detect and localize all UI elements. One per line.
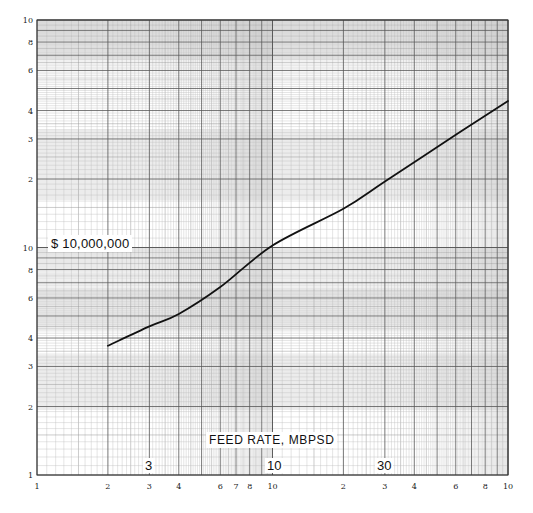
x-tick-label: 10 (267, 482, 277, 491)
y-tick-label: 8 (28, 266, 33, 275)
x-tick-label: 2 (341, 482, 346, 491)
x-annotation-3: 3 (143, 458, 154, 473)
y-tick-label: 2 (28, 175, 33, 184)
x-tick-label: 6 (218, 482, 223, 491)
x-tick-label: 3 (147, 482, 152, 491)
y-tick-label: 10 (23, 16, 33, 25)
x-tick-label: 1 (34, 482, 39, 491)
y-tick-label: 3 (28, 135, 33, 144)
x-tick-label: 10 (503, 482, 513, 491)
x-tick-label: 4 (176, 482, 181, 491)
y-tick-label: 6 (28, 66, 33, 75)
y-tick-label: 8 (28, 38, 33, 47)
x-axis-title: FEED RATE, MBPSD (206, 432, 337, 448)
x-tick-label: 6 (453, 482, 458, 491)
y-tick-label: 2 (28, 403, 33, 412)
x-tick-label: 3 (382, 482, 387, 491)
x-annotation-30: 30 (375, 458, 393, 473)
y-tick-label: 4 (28, 107, 33, 116)
x-tick-label: 7 (233, 482, 238, 491)
y-tick-label: 6 (28, 294, 33, 303)
x-annotation-10: 10 (265, 458, 283, 473)
y-tick-label: 4 (28, 334, 33, 343)
y-tick-label: 1 (28, 471, 33, 480)
x-tick-label: 8 (247, 482, 252, 491)
y-axis-tick-labels: 123468102346810 (23, 16, 33, 480)
y-tick-label: 3 (28, 362, 33, 371)
x-axis-tick-labels: 1234678102346810 (34, 482, 513, 491)
y-axis-unit-label: $ 10,000,000 (48, 235, 132, 252)
y-tick-label: 10 (23, 244, 33, 253)
x-tick-label: 4 (412, 482, 417, 491)
x-tick-label: 8 (483, 482, 488, 491)
x-tick-label: 2 (105, 482, 110, 491)
